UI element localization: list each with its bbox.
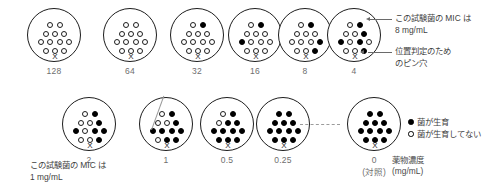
well-no-growth[interactable]	[343, 48, 349, 54]
well-no-growth[interactable]	[308, 39, 314, 45]
well-growth[interactable]	[312, 48, 318, 54]
well-growth[interactable]	[92, 128, 98, 134]
well-growth[interactable]	[357, 39, 363, 45]
well-no-growth[interactable]	[298, 39, 304, 45]
well-growth[interactable]	[239, 39, 245, 45]
well-no-growth[interactable]	[186, 31, 192, 37]
well-no-growth[interactable]	[123, 22, 129, 28]
well-growth[interactable]	[258, 22, 264, 28]
well-growth[interactable]	[73, 128, 79, 134]
well-no-growth[interactable]	[61, 48, 67, 54]
well-no-growth[interactable]	[57, 39, 63, 45]
well-no-growth[interactable]	[216, 120, 222, 126]
plate-128[interactable]: X	[27, 8, 81, 62]
plate-32[interactable]: X	[170, 8, 224, 62]
well-growth[interactable]	[101, 128, 107, 134]
well-growth[interactable]	[225, 120, 231, 126]
well-growth[interactable]	[290, 137, 296, 143]
well-no-growth[interactable]	[220, 111, 226, 117]
well-growth[interactable]	[286, 128, 292, 134]
well-growth[interactable]	[290, 120, 296, 126]
well-no-growth[interactable]	[294, 31, 300, 37]
well-no-growth[interactable]	[267, 39, 273, 45]
well-no-growth[interactable]	[347, 39, 353, 45]
well-no-growth[interactable]	[137, 31, 143, 37]
well-no-growth[interactable]	[119, 48, 125, 54]
well-no-growth[interactable]	[159, 111, 165, 117]
well-growth[interactable]	[361, 31, 367, 37]
well-no-growth[interactable]	[155, 137, 161, 143]
well-no-growth[interactable]	[343, 31, 349, 37]
well-no-growth[interactable]	[133, 39, 139, 45]
well-no-growth[interactable]	[303, 31, 309, 37]
well-growth[interactable]	[159, 128, 165, 134]
well-growth[interactable]	[96, 137, 102, 143]
well-growth[interactable]	[367, 111, 373, 117]
well-growth[interactable]	[173, 120, 179, 126]
well-no-growth[interactable]	[38, 39, 44, 45]
well-growth[interactable]	[169, 111, 175, 117]
well-no-growth[interactable]	[244, 31, 250, 37]
well-no-growth[interactable]	[262, 48, 268, 54]
plate-0[interactable]: X	[347, 97, 401, 151]
well-growth[interactable]	[386, 128, 392, 134]
well-no-growth[interactable]	[142, 39, 148, 45]
well-growth[interactable]	[367, 128, 373, 134]
well-growth[interactable]	[286, 111, 292, 117]
well-no-growth[interactable]	[155, 120, 161, 126]
well-growth[interactable]	[357, 22, 363, 28]
well-no-growth[interactable]	[289, 39, 295, 45]
well-growth[interactable]	[276, 128, 282, 134]
well-growth[interactable]	[317, 39, 323, 45]
plate-0-5[interactable]: X	[200, 97, 254, 151]
well-no-growth[interactable]	[61, 31, 67, 37]
well-growth[interactable]	[92, 111, 98, 117]
plate-16[interactable]: X	[228, 8, 282, 62]
well-growth[interactable]	[211, 128, 217, 134]
well-no-growth[interactable]	[43, 48, 49, 54]
well-growth[interactable]	[178, 128, 184, 134]
well-growth[interactable]	[96, 120, 102, 126]
well-growth[interactable]	[200, 22, 206, 28]
well-growth[interactable]	[272, 137, 278, 143]
well-no-growth[interactable]	[78, 137, 84, 143]
well-growth[interactable]	[377, 111, 383, 117]
well-no-growth[interactable]	[204, 48, 210, 54]
well-growth[interactable]	[381, 137, 387, 143]
well-no-growth[interactable]	[244, 48, 250, 54]
well-growth[interactable]	[381, 120, 387, 126]
well-no-growth[interactable]	[133, 22, 139, 28]
well-no-growth[interactable]	[66, 39, 72, 45]
well-no-growth[interactable]	[352, 31, 358, 37]
well-growth[interactable]	[358, 128, 364, 134]
well-growth[interactable]	[220, 128, 226, 134]
well-no-growth[interactable]	[366, 39, 372, 45]
well-no-growth[interactable]	[123, 39, 129, 45]
well-growth[interactable]	[363, 137, 369, 143]
plate-4[interactable]: X	[327, 8, 381, 62]
well-growth[interactable]	[338, 39, 344, 45]
well-no-growth[interactable]	[294, 48, 300, 54]
well-no-growth[interactable]	[200, 39, 206, 45]
well-growth[interactable]	[276, 111, 282, 117]
well-growth[interactable]	[281, 120, 287, 126]
well-growth[interactable]	[363, 120, 369, 126]
well-no-growth[interactable]	[82, 111, 88, 117]
well-growth[interactable]	[267, 128, 273, 134]
well-no-growth[interactable]	[137, 48, 143, 54]
well-no-growth[interactable]	[186, 48, 192, 54]
well-no-growth[interactable]	[258, 39, 264, 45]
well-no-growth[interactable]	[253, 31, 259, 37]
well-growth[interactable]	[234, 120, 240, 126]
well-no-growth[interactable]	[347, 22, 353, 28]
well-no-growth[interactable]	[47, 39, 53, 45]
plate-8[interactable]: X	[278, 8, 332, 62]
plate-1[interactable]: X	[139, 97, 193, 151]
well-no-growth[interactable]	[248, 39, 254, 45]
well-growth[interactable]	[230, 111, 236, 117]
well-no-growth[interactable]	[87, 120, 93, 126]
well-growth[interactable]	[239, 128, 245, 134]
well-no-growth[interactable]	[114, 39, 120, 45]
well-no-growth[interactable]	[57, 22, 63, 28]
well-no-growth[interactable]	[181, 39, 187, 45]
